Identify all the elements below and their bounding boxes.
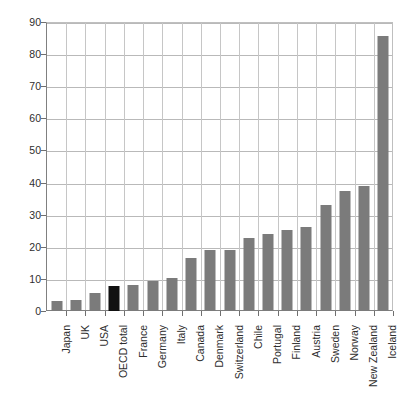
bar[interactable] bbox=[128, 285, 139, 311]
x-axis-tick-label: Portugal bbox=[272, 325, 283, 364]
bar[interactable] bbox=[186, 258, 197, 311]
x-axis-tick-mark bbox=[239, 311, 240, 316]
x-axis-tick-label: USA bbox=[99, 325, 110, 347]
x-axis-tick-mark bbox=[124, 311, 125, 316]
x-axis-tick-label: Italy bbox=[176, 325, 187, 344]
bar[interactable] bbox=[51, 301, 62, 311]
bar[interactable] bbox=[301, 227, 312, 311]
x-axis-tick-label: Chile bbox=[253, 325, 264, 349]
x-axis-tick-label: Denmark bbox=[214, 325, 225, 368]
y-axis-tick-label: 30 bbox=[3, 210, 41, 220]
x-axis-tick-label: Finland bbox=[291, 325, 302, 359]
bar[interactable] bbox=[109, 286, 120, 311]
bar-slot bbox=[374, 22, 393, 311]
bar[interactable] bbox=[224, 250, 235, 311]
x-axis-tick-mark bbox=[374, 311, 375, 316]
y-axis-labels: 0102030405060708090 bbox=[0, 22, 41, 311]
x-axis-tick-mark bbox=[162, 311, 163, 316]
y-axis-tick-label: 80 bbox=[3, 49, 41, 59]
bar[interactable] bbox=[205, 250, 216, 311]
bar[interactable] bbox=[147, 281, 158, 312]
x-axis-tick-mark bbox=[393, 311, 394, 316]
x-axis-tick-mark bbox=[66, 311, 67, 316]
x-axis-tick-mark bbox=[201, 311, 202, 316]
bar-slot bbox=[182, 22, 201, 311]
bar[interactable] bbox=[70, 300, 81, 311]
bar-slot bbox=[316, 22, 335, 311]
x-axis-tick-mark bbox=[220, 311, 221, 316]
x-axis-tick-mark bbox=[355, 311, 356, 316]
bar[interactable] bbox=[282, 230, 293, 311]
bar[interactable] bbox=[378, 36, 389, 311]
x-axis-tick-label: Sweden bbox=[330, 325, 341, 363]
x-axis-labels: JapanUKUSAOECD totalFranceGermanyItalyCa… bbox=[47, 311, 393, 395]
bar-slot bbox=[143, 22, 162, 311]
bar-slot bbox=[85, 22, 104, 311]
x-axis-tick-mark bbox=[335, 311, 336, 316]
y-axis-tick-label: 20 bbox=[3, 242, 41, 252]
bar-slot bbox=[335, 22, 354, 311]
x-axis-tick-label: Norway bbox=[349, 325, 360, 361]
x-axis-tick-mark bbox=[278, 311, 279, 316]
y-axis-tick-label: 40 bbox=[3, 178, 41, 188]
x-axis-tick-mark bbox=[297, 311, 298, 316]
x-axis-tick-mark bbox=[143, 311, 144, 316]
x-axis-tick-mark bbox=[85, 311, 86, 316]
x-axis-tick-label: OECD total bbox=[118, 325, 129, 378]
bar[interactable] bbox=[359, 186, 370, 311]
x-axis-tick-label: France bbox=[138, 325, 149, 358]
bar-slot bbox=[124, 22, 143, 311]
bar-slot bbox=[105, 22, 124, 311]
x-axis-tick-mark bbox=[316, 311, 317, 316]
x-axis-tick-label: Austria bbox=[311, 325, 322, 358]
x-axis-tick-label: UK bbox=[80, 325, 91, 340]
bar[interactable] bbox=[263, 234, 274, 311]
y-axis-tick-mark bbox=[41, 311, 46, 312]
x-axis-tick-label: New Zealand bbox=[368, 325, 379, 387]
bar-slot bbox=[47, 22, 66, 311]
bar-slot bbox=[278, 22, 297, 311]
bar[interactable] bbox=[90, 293, 101, 311]
y-axis-tick-label: 90 bbox=[3, 17, 41, 27]
bar-slot bbox=[201, 22, 220, 311]
bars-layer bbox=[47, 22, 393, 311]
bar[interactable] bbox=[243, 238, 254, 311]
bar-slot bbox=[258, 22, 277, 311]
bar-slot bbox=[355, 22, 374, 311]
bar-slot bbox=[66, 22, 85, 311]
bar[interactable] bbox=[320, 205, 331, 311]
x-axis-tick-mark bbox=[105, 311, 106, 316]
x-axis-tick-label: Germany bbox=[157, 325, 168, 368]
bar-slot bbox=[239, 22, 258, 311]
y-axis-tick-label: 10 bbox=[3, 274, 41, 284]
x-axis-tick-label: Iceland bbox=[387, 325, 398, 359]
bar[interactable] bbox=[339, 191, 350, 311]
bar-chart: 0102030405060708090 JapanUKUSAOECD total… bbox=[0, 0, 408, 396]
x-axis-tick-label: Canada bbox=[195, 325, 206, 362]
x-axis-tick-mark bbox=[182, 311, 183, 316]
y-axis-tick-label: 60 bbox=[3, 113, 41, 123]
x-axis-tick-label: Japan bbox=[61, 325, 72, 354]
y-axis-tick-label: 70 bbox=[3, 81, 41, 91]
x-axis-tick-label: Switzerland bbox=[234, 325, 245, 379]
bar-slot bbox=[220, 22, 239, 311]
bar-slot bbox=[297, 22, 316, 311]
bar[interactable] bbox=[166, 278, 177, 311]
bar-slot bbox=[162, 22, 181, 311]
x-axis-tick-mark bbox=[258, 311, 259, 316]
y-axis-tick-label: 0 bbox=[3, 306, 41, 316]
y-axis-tick-label: 50 bbox=[3, 145, 41, 155]
